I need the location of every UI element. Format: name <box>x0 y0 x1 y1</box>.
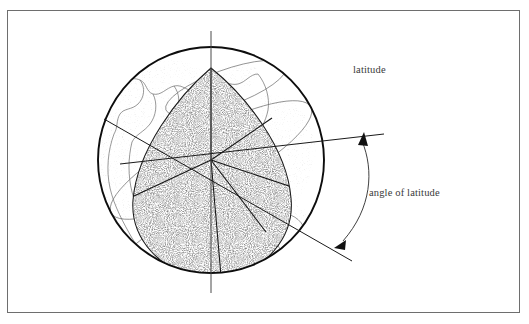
angle-of-latitude-arc <box>343 141 369 241</box>
angle-arc-arrowhead-top <box>358 132 368 146</box>
label-angle-of-latitude: angle of latitude <box>369 187 440 198</box>
latitude-globe-diagram <box>0 0 529 324</box>
figure-root: latitude angle of latitude <box>0 0 529 324</box>
angle-arc-arrowhead-bottom <box>334 240 346 250</box>
label-latitude: latitude <box>353 64 386 75</box>
